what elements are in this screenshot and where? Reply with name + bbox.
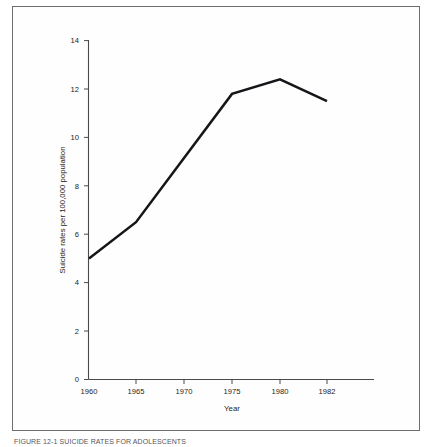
x-tick-label-1982: 1982 <box>319 387 336 396</box>
y-axis-ticks <box>84 41 89 380</box>
figure-frame: 0 2 4 6 8 10 12 14 1960 1965 19 <box>12 6 420 431</box>
y-tick-label-8: 8 <box>75 182 79 191</box>
figure-caption: FIGURE 12-1 SUICIDE RATES FOR ADOLESCENT… <box>14 438 414 447</box>
x-axis-tick-labels: 1960 1965 1970 1975 1980 1982 <box>81 387 336 396</box>
x-tick-label-1960: 1960 <box>81 387 98 396</box>
line-chart-svg: 0 2 4 6 8 10 12 14 1960 1965 19 <box>13 7 421 432</box>
y-tick-label-2: 2 <box>75 327 79 336</box>
y-tick-label-10: 10 <box>71 133 79 142</box>
x-tick-label-1975: 1975 <box>224 387 241 396</box>
y-axis-title: Suicide rates per 100,000 population <box>58 146 67 273</box>
chart-plot-area: 0 2 4 6 8 10 12 14 1960 1965 19 <box>13 7 421 432</box>
x-axis-ticks <box>136 380 327 385</box>
x-tick-label-1970: 1970 <box>176 387 193 396</box>
x-tick-label-1980: 1980 <box>272 387 289 396</box>
y-axis-tick-labels: 0 2 4 6 8 10 12 14 <box>71 36 79 384</box>
y-tick-label-6: 6 <box>75 230 79 239</box>
y-tick-label-12: 12 <box>71 85 79 94</box>
x-tick-label-1965: 1965 <box>128 387 145 396</box>
y-tick-label-14: 14 <box>71 36 79 45</box>
y-tick-label-0: 0 <box>75 375 79 384</box>
y-tick-label-4: 4 <box>75 278 79 287</box>
suicide-rate-line <box>89 79 327 258</box>
x-axis-title: Year <box>224 404 240 413</box>
